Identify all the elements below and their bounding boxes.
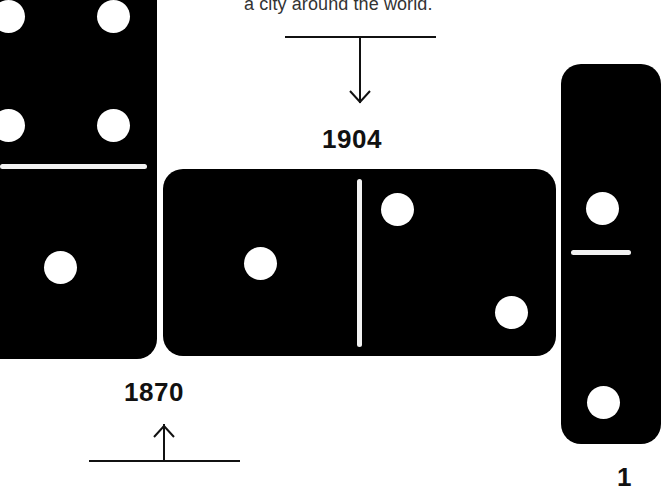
domino-pip [587,386,620,419]
domino-divider [571,250,631,255]
arrow-down-icon [348,88,372,106]
domino-left-vertical [0,0,157,359]
domino-pip [97,109,130,142]
domino-divider [357,179,362,347]
domino-pip [97,0,130,33]
arrow-stem-1870 [163,424,165,462]
year-label-1904: 1904 [322,124,382,155]
year-label-1870: 1870 [124,377,184,408]
domino-pip [244,247,277,280]
timeline-bar-1870 [89,460,240,462]
domino-pip [586,192,619,225]
caption-text: a city around the world. [244,0,433,15]
partial-year-label: 1 [617,462,632,490]
domino-pip [381,193,414,226]
domino-pip [495,296,528,329]
domino-divider [0,164,147,169]
domino-pip [44,251,77,284]
